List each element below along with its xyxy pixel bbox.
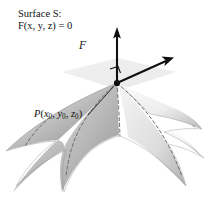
figure-tangent-plane-normal-vector: Surface S: F(x, y, z) = 0 F P(x0, y0, z0… [0,0,208,197]
surface-body [6,83,204,192]
surface-equation-label: Surface S: F(x, y, z) = 0 [18,8,72,33]
surface-label-line-2: F(x, y, z) = 0 [18,20,72,32]
point-coordinates-label: P(x0, y0, z0) [34,108,82,121]
surface-label-line-1: Surface S: [18,8,72,20]
normal-vector-label: F [79,39,86,53]
point-P-dot [114,80,120,86]
point-label-close-paren: ) [79,108,83,119]
